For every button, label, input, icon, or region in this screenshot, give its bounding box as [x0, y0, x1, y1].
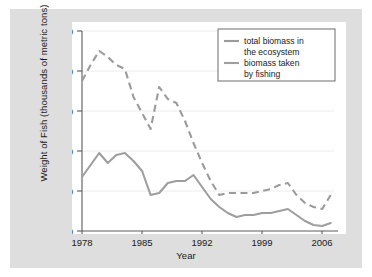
- x-tick-label-1999: 1999: [251, 237, 272, 248]
- y-tick-label-0: 0: [72, 226, 73, 235]
- x-tick-label-1985: 1985: [131, 237, 152, 248]
- legend-label-total-biomass-line1: total biomass in: [244, 36, 304, 46]
- y-axis: [77, 31, 82, 231]
- figure-frame: Weight of Fish (thousands of metric tons…: [10, 9, 362, 268]
- y-tick-label-60: 60: [72, 106, 73, 117]
- chart-legend: total biomass in the ecosystem biomass t…: [218, 29, 335, 81]
- x-axis: [82, 231, 338, 234]
- legend-label-total-biomass-line2: the ecosystem: [244, 47, 299, 57]
- y-tick-label-20: 20: [72, 186, 73, 197]
- x-tick-label-1978: 1978: [71, 237, 92, 248]
- x-tick-label-2006: 2006: [311, 237, 332, 248]
- legend-label-fishing-biomass-line1: biomass taken: [244, 58, 300, 68]
- plot-area: 100 80 60 40 20 0: [72, 22, 346, 234]
- x-tick-labels: 1978 1985 1992 1999 2006: [10, 235, 362, 255]
- y-tick-label-40: 40: [72, 146, 73, 157]
- x-tick-label-1992: 1992: [191, 237, 212, 248]
- y-tick-label-80: 80: [72, 66, 73, 77]
- y-tick-label-100: 100: [72, 26, 73, 37]
- line-chart: 100 80 60 40 20 0: [72, 22, 346, 234]
- y-axis-label-wrapper: Weight of Fish (thousands of metric tons…: [38, 0, 52, 188]
- legend-label-fishing-biomass-line2: by fishing: [244, 69, 281, 79]
- y-axis-label: Weight of Fish (thousands of metric tons…: [38, 0, 49, 188]
- y-tick-labels: 100 80 60 40 20 0: [72, 26, 73, 235]
